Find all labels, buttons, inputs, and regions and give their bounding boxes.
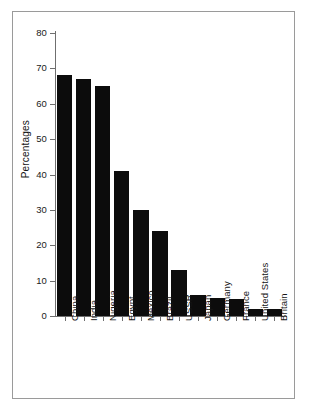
- x-tick-mark: [141, 317, 142, 321]
- x-tick-mark: [274, 317, 275, 321]
- y-tick: 60: [0, 104, 55, 105]
- x-tick-mark: [217, 317, 218, 321]
- x-tick-mark: [103, 317, 104, 321]
- x-tick-label: Brazil: [164, 297, 175, 321]
- x-tick-label: Germany: [221, 281, 232, 321]
- x-tick-mark: [84, 317, 85, 321]
- x-tick-label: United States: [259, 263, 270, 321]
- x-tick-label: Mexico: [145, 290, 156, 321]
- y-tick: 50: [0, 139, 55, 140]
- bar: [76, 79, 91, 316]
- y-tick: 40: [0, 175, 55, 176]
- x-tick-label: China: [69, 296, 80, 321]
- y-tick-label: 10: [36, 274, 47, 287]
- y-tick: 0: [0, 316, 55, 317]
- y-tick-label: 70: [36, 61, 47, 74]
- y-tick-mark: [50, 316, 55, 317]
- bar: [95, 86, 110, 316]
- y-tick-label: 80: [36, 26, 47, 39]
- bar: [57, 75, 72, 316]
- plot-area: [55, 33, 284, 316]
- x-tick-label: India: [88, 300, 99, 321]
- x-tick-label: Egypt: [126, 296, 137, 321]
- x-tick-mark: [122, 317, 123, 321]
- y-tick: 20: [0, 245, 55, 246]
- x-tick-mark: [160, 317, 161, 321]
- x-tick-mark: [65, 317, 66, 321]
- y-tick: 70: [0, 68, 55, 69]
- x-tick-label: France: [240, 291, 251, 321]
- x-tick-label: Nigeria: [107, 290, 118, 321]
- y-tick-label: 40: [36, 168, 47, 181]
- y-tick: 10: [0, 281, 55, 282]
- x-tick-mark: [179, 317, 180, 321]
- x-tick-mark: [255, 317, 256, 321]
- x-tick-label: Britain: [278, 293, 289, 321]
- y-axis-title: Percentages: [20, 120, 31, 178]
- x-tick-mark: [198, 317, 199, 321]
- chart-page: Percentages 01020304050607080 ChinaIndia…: [0, 0, 310, 416]
- y-tick-label: 60: [36, 97, 47, 110]
- y-tick: 30: [0, 210, 55, 211]
- x-tick-label: Japan: [202, 295, 213, 321]
- y-tick-label: 20: [36, 238, 47, 251]
- y-tick-label: 30: [36, 203, 47, 216]
- x-tick-label: USSR: [183, 294, 194, 321]
- y-tick-label: 50: [36, 132, 47, 145]
- y-tick: 80: [0, 33, 55, 34]
- y-tick-label: 0: [42, 309, 47, 322]
- x-tick-mark: [236, 317, 237, 321]
